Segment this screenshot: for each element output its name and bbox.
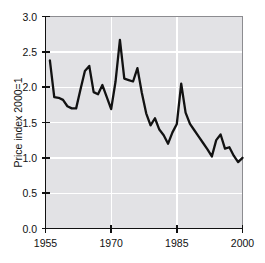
y-tick-label: 3.0 — [22, 11, 37, 23]
y-tick-label: 2.0 — [22, 81, 37, 93]
x-tick-label: 1955 — [34, 237, 58, 249]
y-tick-label: 0.0 — [22, 223, 37, 235]
y-tick-label: 1.5 — [22, 117, 37, 129]
y-tick-label: 2.5 — [22, 46, 37, 58]
y-axis-title: Price index 2000=1 — [12, 77, 24, 167]
price-index-line-chart: 3.0 2.5 2.0 1.5 1.0 0.5 0.0 1955 1970 19… — [0, 0, 265, 263]
y-tick-label: 0.5 — [22, 187, 37, 199]
chart-figure: 3.0 2.5 2.0 1.5 1.0 0.5 0.0 1955 1970 19… — [0, 0, 265, 263]
x-axis-tick-labels: 1955 1970 1985 2000 — [34, 237, 255, 249]
y-tick-label: 1.0 — [22, 152, 37, 164]
x-tick-label: 2000 — [231, 237, 255, 249]
x-tick-label: 1970 — [100, 237, 124, 249]
x-tick-label: 1985 — [165, 237, 189, 249]
y-axis-tick-labels: 3.0 2.5 2.0 1.5 1.0 0.5 0.0 — [22, 11, 37, 235]
